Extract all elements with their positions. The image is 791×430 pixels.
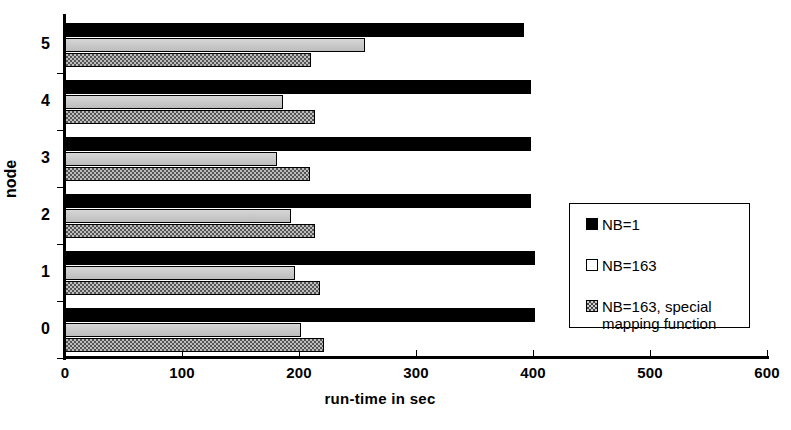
x-axis-tick-label: 200 — [269, 364, 329, 381]
legend-label: NB=1 — [602, 216, 640, 233]
bar-series-2-node-5 — [65, 53, 311, 67]
y-axis-tick — [57, 130, 65, 131]
x-axis-title: run-time in sec — [0, 390, 760, 407]
bar-series-0-node-4 — [65, 80, 531, 94]
y-axis-tick — [57, 187, 65, 188]
x-axis-tick-label: 300 — [386, 364, 446, 381]
x-axis-tick — [650, 350, 651, 357]
x-axis-tick-label: 0 — [35, 364, 95, 381]
bar-series-1-node-2 — [65, 209, 291, 223]
bar-series-0-node-5 — [65, 23, 524, 37]
y-axis-tick-label: 5 — [18, 35, 50, 53]
x-axis-tick-label: 100 — [152, 364, 212, 381]
bar-series-0-node-0 — [65, 308, 535, 322]
x-axis-tick-label: 500 — [620, 364, 680, 381]
bar-series-0-node-3 — [65, 137, 531, 151]
bar-chart: 0100200300400500600543210 run-time in se… — [0, 0, 791, 430]
x-axis-tick — [533, 350, 534, 357]
legend-label: NB=163 — [602, 257, 657, 274]
legend-item-nb-163-special: NB=163, special mapping function — [586, 298, 716, 332]
bar-series-2-node-0 — [65, 338, 324, 352]
bar-series-0-node-1 — [65, 251, 535, 265]
y-axis-title: node — [2, 144, 20, 214]
y-axis-tick — [57, 358, 65, 359]
bar-series-1-node-5 — [65, 38, 365, 52]
legend-item-nb-163: NB=163 — [586, 257, 657, 274]
legend-swatch-checkered-icon — [586, 300, 598, 312]
legend-swatch-solid-icon — [586, 218, 598, 230]
bar-series-1-node-1 — [65, 266, 295, 280]
x-axis-tick-label: 400 — [503, 364, 563, 381]
y-axis-tick-label: 4 — [18, 92, 50, 110]
y-axis-tick — [57, 73, 65, 74]
x-axis-tick-label: 600 — [737, 364, 791, 381]
legend-swatch-empty-icon — [586, 259, 598, 271]
y-axis-tick-label: 1 — [18, 263, 50, 281]
y-axis-tick-label: 0 — [18, 320, 50, 338]
y-axis-tick — [57, 244, 65, 245]
y-axis-tick-label: 2 — [18, 206, 50, 224]
legend-label: NB=163, special mapping function — [602, 298, 716, 332]
bar-series-2-node-4 — [65, 110, 315, 124]
legend: NB=1 NB=163 NB=163, special mapping func… — [569, 203, 750, 328]
legend-item-nb-1: NB=1 — [586, 216, 640, 233]
y-axis-tick-label: 3 — [18, 149, 50, 167]
x-axis-tick — [767, 350, 768, 357]
bar-series-1-node-3 — [65, 152, 277, 166]
bar-series-1-node-4 — [65, 95, 283, 109]
bar-series-0-node-2 — [65, 194, 531, 208]
bar-series-2-node-1 — [65, 281, 320, 295]
x-axis-tick — [416, 350, 417, 357]
bar-series-2-node-3 — [65, 167, 310, 181]
y-axis-tick — [57, 301, 65, 302]
bar-series-2-node-2 — [65, 224, 315, 238]
bar-series-1-node-0 — [65, 323, 301, 337]
